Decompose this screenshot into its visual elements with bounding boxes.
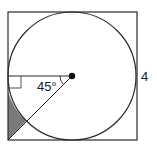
shaded-region	[8, 92, 26, 140]
center-point	[69, 73, 75, 79]
side-length-label: 4	[141, 69, 148, 84]
angle-label: 45°	[37, 79, 57, 94]
geometry-diagram: 45° 4	[0, 0, 157, 147]
right-angle-marker	[8, 76, 21, 88]
angle-arc	[60, 76, 64, 85]
